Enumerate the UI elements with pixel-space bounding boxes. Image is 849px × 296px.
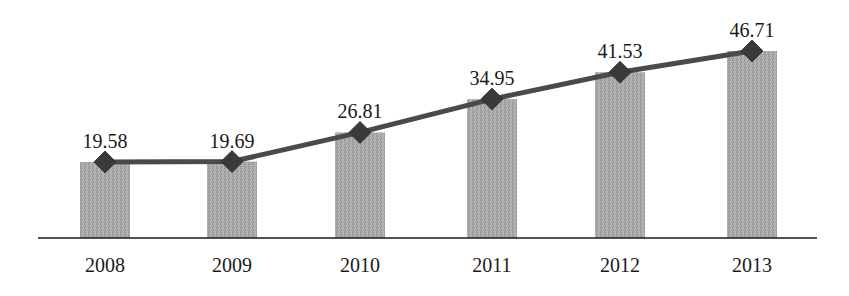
data-label: 19.69 xyxy=(210,130,255,152)
line-series xyxy=(105,51,752,162)
trend-line xyxy=(105,51,752,162)
x-tick-label: 2011 xyxy=(472,254,511,276)
data-label: 19.58 xyxy=(83,130,128,152)
data-label: 41.53 xyxy=(598,40,643,62)
x-tick-label: 2010 xyxy=(340,254,380,276)
x-axis-tick-labels: 200820092010201120122013 xyxy=(85,254,772,276)
x-tick-label: 2012 xyxy=(600,254,640,276)
data-label: 34.95 xyxy=(470,67,515,89)
bar-2012 xyxy=(595,72,645,238)
x-tick-label: 2008 xyxy=(85,254,125,276)
bar-2013 xyxy=(727,51,777,238)
bar-series xyxy=(80,51,777,238)
bar-2011 xyxy=(467,99,517,238)
x-tick-label: 2009 xyxy=(212,254,252,276)
line-markers xyxy=(94,40,763,173)
x-tick-label: 2013 xyxy=(732,254,772,276)
bar-line-chart: 19.5819.6926.8134.9541.5346.71 200820092… xyxy=(0,0,849,296)
bar-2010 xyxy=(335,132,385,238)
data-labels: 19.5819.6926.8134.9541.5346.71 xyxy=(83,19,775,152)
data-label: 46.71 xyxy=(730,19,775,41)
data-label: 26.81 xyxy=(338,100,383,122)
